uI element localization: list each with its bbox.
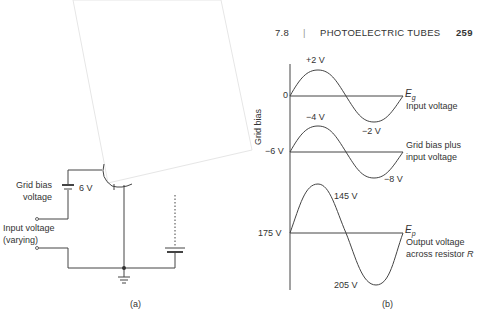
ep-symbol-sub: p bbox=[412, 230, 416, 237]
bias-baseline: −6 V bbox=[265, 146, 284, 157]
ep-symbol-letter: E bbox=[405, 224, 412, 235]
output-description-text: across resistor bbox=[406, 249, 465, 259]
figure-b-caption: (b) bbox=[382, 299, 393, 310]
input-trough: −2 V bbox=[362, 126, 381, 137]
bias-peak: −4 V bbox=[306, 112, 325, 123]
y-axis-label: Grid bias bbox=[253, 109, 264, 145]
bias-description: Grid bias plus bbox=[406, 140, 461, 151]
output-peak: 145 V bbox=[334, 191, 358, 202]
eg-symbol-sub: g bbox=[412, 94, 416, 101]
output-description: Output voltage bbox=[406, 237, 465, 248]
input-peak: +2 V bbox=[306, 55, 325, 66]
input-baseline: 0 bbox=[283, 90, 288, 101]
output-trough: 205 V bbox=[334, 280, 358, 291]
output-baseline: 175 V bbox=[258, 228, 282, 239]
input-description: Input voltage bbox=[406, 101, 458, 112]
output-description-2: across resistor R bbox=[406, 249, 474, 260]
bias-description-2: input voltage bbox=[406, 152, 457, 163]
eg-symbol-letter: E bbox=[405, 88, 412, 99]
bias-trough: −8 V bbox=[384, 174, 403, 185]
resistor-var: R bbox=[467, 249, 474, 259]
